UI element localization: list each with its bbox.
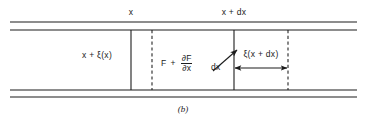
figure-container: x x + dx x + ξ(x) ξ(x + dx) dx F + ∂F ∂x…: [0, 0, 366, 124]
label-station-x: x: [129, 7, 134, 17]
label-left-displacement: x + ξ(x): [82, 50, 112, 60]
label-right-displacement: ξ(x + dx): [243, 49, 278, 59]
fraction-denominator: ∂x: [181, 63, 192, 73]
figure-caption: (b): [178, 104, 189, 114]
partial-derivative-fraction: ∂F ∂x: [181, 54, 193, 73]
label-dx: dx: [211, 62, 221, 72]
force-symbol: F: [161, 58, 167, 68]
force-expression: F + ∂F ∂x: [161, 54, 193, 73]
tube-top-wall: [10, 22, 357, 30]
tube-bottom-wall: [10, 90, 357, 97]
label-station-x-plus-dx: x + dx: [222, 7, 247, 17]
plus-sign: +: [171, 58, 176, 68]
fraction-numerator: ∂F: [181, 54, 193, 63]
